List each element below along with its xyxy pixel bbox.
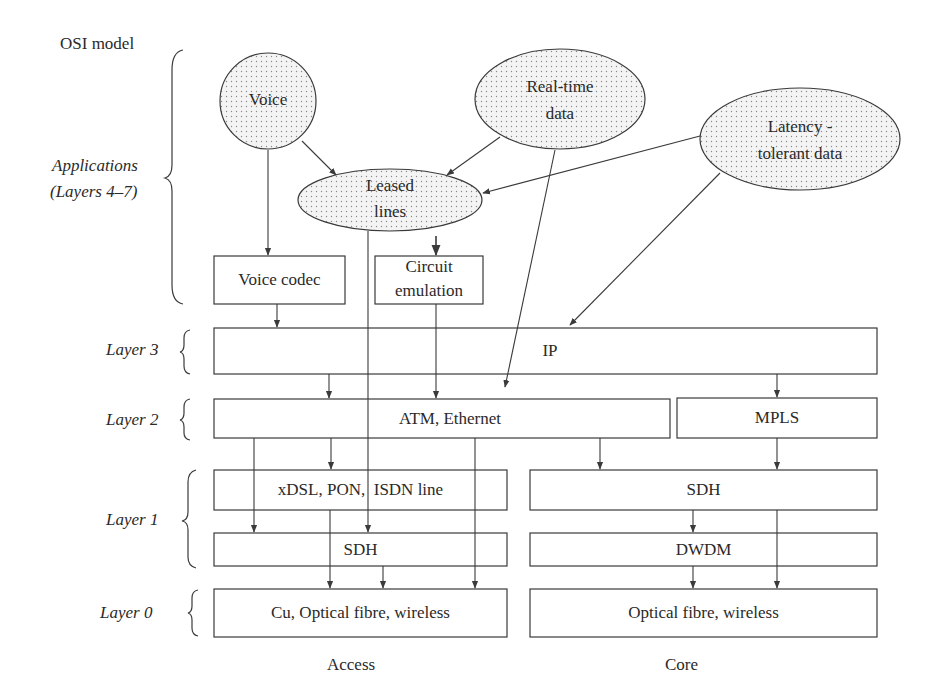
layer1-label: Layer 1 xyxy=(106,510,158,530)
layer1-brace xyxy=(182,470,196,568)
access-sdh-label: SDH xyxy=(214,533,507,566)
access-column-label: Access xyxy=(327,655,375,675)
core-layer0-label: Optical fibre, wireless xyxy=(530,589,877,637)
realtime-node-label-1: Real-time xyxy=(500,76,620,98)
applications-sublabel: (Layers 4–7) xyxy=(50,182,137,202)
mpls-label: MPLS xyxy=(677,398,877,438)
realtime-node-label-2: data xyxy=(500,103,620,125)
layer3-label: Layer 3 xyxy=(106,340,158,360)
applications-brace xyxy=(165,50,183,304)
arrow-voice-to-leased xyxy=(302,141,336,175)
latency-tolerant-data-node xyxy=(700,88,900,190)
arrow-realtime-to-leased xyxy=(447,137,500,175)
layer2-label: Layer 2 xyxy=(106,410,158,430)
osi-model-title: OSI model xyxy=(60,34,134,54)
layer0-brace xyxy=(188,590,198,636)
ip-label: IP xyxy=(520,328,580,374)
access-layer1-label: xDSL, PON, ISDN line xyxy=(214,470,507,510)
core-dwdm-label: DWDM xyxy=(530,533,877,566)
voice-node-label: Voice xyxy=(228,89,308,111)
layer2-brace xyxy=(180,399,190,440)
latency-node-label-2: tolerant data xyxy=(730,143,870,165)
atm-ethernet-label: ATM, Ethernet xyxy=(370,399,530,438)
leased-node-label-1: Leased xyxy=(330,175,450,197)
realtime-data-node xyxy=(475,49,645,149)
applications-label: Applications xyxy=(52,156,138,176)
arrow-latency-to-ip xyxy=(570,173,720,325)
latency-node-label-1: Latency - xyxy=(740,116,860,138)
layer3-brace xyxy=(180,330,190,374)
access-layer0-label: Cu, Optical fibre, wireless xyxy=(214,589,507,637)
core-sdh-label: SDH xyxy=(530,470,877,510)
layer0-label: Layer 0 xyxy=(100,603,152,623)
circuit-emulation-label-2: emulation xyxy=(375,280,483,302)
circuit-emulation-label-1: Circuit xyxy=(375,256,483,278)
voice-codec-label: Voice codec xyxy=(214,256,345,304)
leased-node-label-2: lines xyxy=(330,201,450,223)
core-column-label: Core xyxy=(665,655,698,675)
